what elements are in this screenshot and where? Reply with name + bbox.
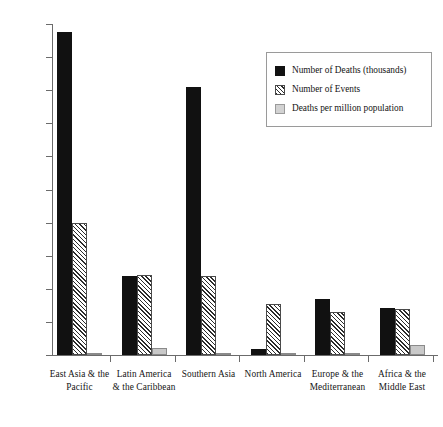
x-axis-category-label-line: Africa & the	[357, 368, 443, 381]
bar-chart: 01002003004005006007008009001000 East As…	[0, 0, 443, 427]
legend-swatch-icon	[275, 104, 285, 114]
legend-item: Number of Deaths (thousands)	[275, 61, 424, 80]
x-axis-category-label-line: Middle East	[357, 381, 443, 394]
bar	[122, 276, 137, 355]
bar	[57, 32, 72, 355]
legend-item-label: Number of Deaths (thousands)	[292, 65, 406, 76]
legend-swatch-icon	[275, 85, 285, 95]
x-axis-category-label: Africa & theMiddle East	[357, 368, 443, 393]
legend-item: Number of Events	[275, 80, 424, 99]
bar	[330, 312, 345, 355]
x-axis-category-label-line: & the Caribbean	[99, 381, 189, 394]
legend-item-label: Deaths per million population	[292, 103, 403, 114]
bar	[152, 348, 167, 355]
bar	[201, 276, 216, 355]
bar	[345, 353, 360, 355]
bar	[410, 345, 425, 355]
bar	[251, 349, 266, 355]
x-axis-tick-mark	[110, 355, 111, 362]
bar	[380, 308, 395, 355]
bar	[315, 299, 330, 355]
bar	[266, 304, 281, 355]
x-axis-tick-mark	[433, 355, 434, 362]
bar	[72, 223, 87, 355]
bar	[186, 87, 201, 355]
chart-legend: Number of Deaths (thousands)Number of Ev…	[266, 52, 432, 127]
y-axis-tick-mark	[46, 355, 53, 356]
legend-swatch-icon	[275, 66, 285, 76]
legend-item-label: Number of Events	[292, 84, 360, 95]
bar	[281, 353, 296, 355]
legend-item: Deaths per million population	[275, 99, 424, 118]
x-axis-tick-mark	[368, 355, 369, 362]
x-axis-tick-mark	[304, 355, 305, 362]
bar	[137, 275, 152, 355]
bar	[87, 353, 102, 355]
bar	[395, 309, 410, 355]
x-axis-tick-mark	[175, 355, 176, 362]
x-axis-tick-mark	[239, 355, 240, 362]
bar	[216, 353, 231, 355]
